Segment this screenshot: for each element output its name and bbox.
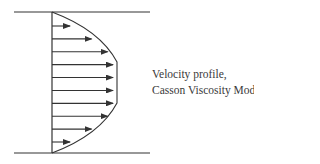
profile-label-line2: Casson Viscosity Model (152, 82, 254, 98)
profile-label-line1: Velocity profile, (152, 66, 254, 82)
velocity-profile-curve (52, 12, 117, 153)
profile-label: Velocity profile, Casson Viscosity Model (152, 66, 254, 98)
